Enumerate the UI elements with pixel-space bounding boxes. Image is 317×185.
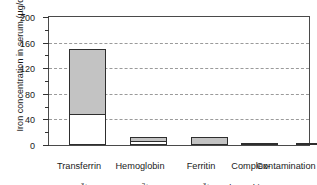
- category-ion: Fe: [131, 183, 142, 185]
- bar-segment-filled: [69, 49, 106, 114]
- category-ion: Fe: [70, 183, 81, 185]
- bar-chart: Iron concentration in serum (µg/dl) 200 …: [0, 0, 317, 185]
- category-ion: Fe: [192, 183, 203, 185]
- ytick-label-40: 40: [25, 115, 35, 125]
- ytick-160: 160: [43, 43, 49, 44]
- ytick-minor-180: [45, 30, 49, 31]
- ytick-0: 0: [43, 145, 49, 146]
- ytick-minor-140: [45, 55, 49, 56]
- ytick-200: 200: [43, 17, 49, 18]
- plot-area: 200 160 120 80 40 0: [48, 16, 310, 146]
- bar-complex-bound-iron: [241, 143, 278, 145]
- category-name: Contamination: [256, 161, 315, 171]
- bar-segment-unfilled: [69, 114, 106, 145]
- ytick-40: 40: [43, 119, 49, 120]
- ytick-label-200: 200: [20, 13, 35, 23]
- gridline-160: [49, 43, 309, 44]
- bar-ferritin: [191, 137, 228, 145]
- bar-hemoglobin: [130, 137, 167, 145]
- category-charge: 3+: [81, 181, 88, 185]
- category-name: Hemoglobin: [115, 161, 164, 171]
- ytick-label-160: 160: [20, 39, 35, 49]
- category-charge: 2+: [142, 181, 149, 185]
- bar-segment-unfilled: [130, 141, 167, 145]
- ytick-80: 80: [43, 94, 49, 95]
- bar-contamination: [296, 143, 317, 145]
- bar-segment-filled: [241, 143, 278, 145]
- ytick-120: 120: [43, 68, 49, 69]
- ytick-minor-60: [45, 107, 49, 108]
- ytick-minor-20: [45, 132, 49, 133]
- category-name: Ferritin: [187, 161, 216, 171]
- bar-segment-filled: [191, 137, 228, 145]
- category-name-line2: bound iron: [229, 183, 272, 185]
- ytick-label-80: 80: [25, 90, 35, 100]
- ytick-label-120: 120: [20, 64, 35, 74]
- ytick-label-0: 0: [30, 141, 35, 151]
- ytick-minor-100: [45, 81, 49, 82]
- bar-segment-filled: [296, 143, 317, 145]
- category-name: Transferrin: [57, 161, 101, 171]
- category-charge: 3+: [203, 181, 210, 185]
- bar-transferrin: [69, 49, 106, 145]
- xtick-label-contamination: Contamination: [255, 150, 317, 172]
